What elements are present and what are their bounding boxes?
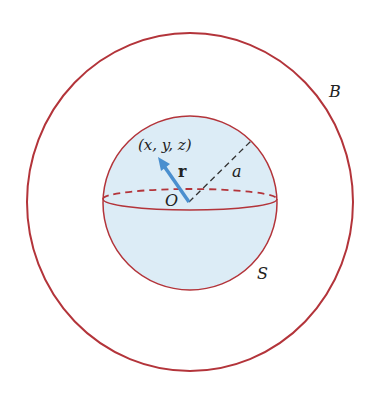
outer-region-label: B: [328, 82, 341, 101]
sphere-label: S: [257, 264, 268, 283]
vector-label: r: [178, 162, 187, 181]
radius-label: a: [232, 162, 242, 181]
point-label: (x, y, z): [138, 136, 192, 154]
origin-label: O: [165, 191, 178, 210]
diagram-canvas: (x, y, z) r a O S B: [0, 0, 379, 399]
